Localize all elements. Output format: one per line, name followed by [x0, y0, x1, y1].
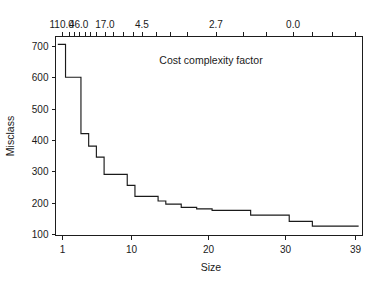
y-tick-label: 100 — [32, 229, 49, 240]
cost-complexity-factor-annotation: Cost complexity factor — [159, 54, 263, 66]
y-tick-label: 500 — [32, 104, 49, 115]
top-axis-tick-label: 0.0 — [286, 19, 300, 30]
top-axis-tick-label: 4.5 — [135, 19, 149, 30]
top-axis-tick-label: 46.0 — [69, 19, 89, 30]
misclass-vs-size-step-chart: 110.046.017.04.52.70.0 10020030040050060… — [0, 0, 388, 282]
x-axis-title: Size — [201, 261, 222, 273]
x-tick-label: 30 — [280, 244, 292, 255]
x-tick-label: 10 — [126, 244, 138, 255]
y-tick-label: 300 — [32, 166, 49, 177]
x-tick-label: 20 — [203, 244, 215, 255]
chart-background — [0, 0, 388, 282]
top-axis-tick-label: 2.7 — [209, 19, 223, 30]
y-tick-label: 700 — [32, 41, 49, 52]
y-tick-label: 400 — [32, 135, 49, 146]
y-tick-label: 200 — [32, 198, 49, 209]
y-axis-title: Misclass — [4, 116, 16, 156]
top-axis-tick-label: 17.0 — [95, 19, 115, 30]
x-tick-label: 39 — [350, 244, 362, 255]
chart-figure: 110.046.017.04.52.70.0 10020030040050060… — [0, 0, 388, 282]
x-tick-label: 1 — [60, 244, 66, 255]
y-tick-label: 600 — [32, 72, 49, 83]
